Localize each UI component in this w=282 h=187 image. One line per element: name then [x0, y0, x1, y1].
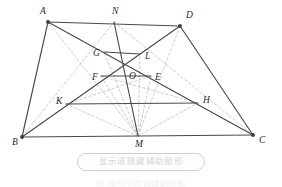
point-label-m: M	[134, 139, 144, 149]
chord-GL	[104, 52, 140, 54]
point-label-n: N	[111, 6, 119, 16]
toggle-auxiliary-figure-button[interactable]: 显示或隐藏辅助图形	[77, 153, 205, 171]
aux-NB	[22, 22, 114, 137]
vertex-dot-b	[20, 135, 24, 139]
point-label-e: E	[154, 72, 161, 82]
point-label-f: F	[91, 72, 98, 82]
point-label-c: C	[259, 135, 266, 145]
figure-caption-text: 图 梯形中位线辅助图形	[96, 178, 185, 187]
auxiliary-dashed-lines-group	[22, 22, 253, 137]
side-AB	[22, 22, 48, 137]
point-label-l: L	[144, 51, 150, 61]
aux-ML	[138, 54, 140, 136]
point-label-g: G	[93, 48, 100, 58]
diagonal-AC	[48, 22, 253, 135]
point-label-b: B	[12, 137, 18, 147]
aux-MF	[101, 76, 138, 136]
chord-KH	[66, 103, 198, 104]
aux-MH	[138, 103, 198, 136]
point-label-h: H	[202, 95, 211, 105]
point-label-a: A	[39, 6, 46, 16]
toggle-auxiliary-figure-label: 显示或隐藏辅助图形	[99, 157, 184, 166]
aux-ME	[138, 76, 151, 136]
vertex-dot-d	[178, 24, 182, 28]
primary-solid-lines-group	[22, 22, 253, 137]
vertex-dots-group	[20, 20, 255, 139]
vertex-dot-a	[46, 20, 50, 24]
vertex-dot-c	[251, 133, 255, 137]
vertex-labels-group: ANDGLOFEKHBMC	[12, 6, 266, 149]
side-DC	[180, 26, 253, 135]
aux-KE	[66, 76, 151, 104]
point-label-d: D	[185, 10, 193, 20]
point-label-o: O	[129, 71, 136, 81]
figure-caption: 图 梯形中位线辅助图形	[0, 178, 282, 187]
geometry-figure-canvas: ANDGLOFEKHBMC 显示或隐藏辅助图形 图 梯形中位线辅助图形	[0, 0, 282, 187]
point-label-k: K	[55, 96, 63, 106]
